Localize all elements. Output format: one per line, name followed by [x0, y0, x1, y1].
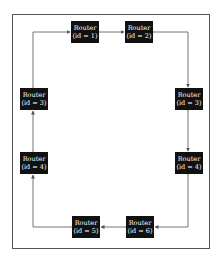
- node-label: Router: [23, 91, 46, 99]
- node-label: Router: [74, 24, 97, 32]
- node-id: (id = 3): [176, 99, 201, 107]
- node-label: Router: [128, 24, 151, 32]
- router-node-3-right: Router (id = 3): [175, 88, 203, 110]
- node-id: (id = 4): [21, 163, 46, 171]
- router-node-4-left: Router (id = 4): [20, 152, 48, 174]
- router-node-1: Router (id = 1): [71, 21, 99, 43]
- node-id: (id = 3): [21, 99, 46, 107]
- router-node-2: Router (id = 2): [125, 21, 153, 43]
- node-id: (id = 5): [73, 227, 98, 235]
- node-label: Router: [129, 219, 152, 227]
- router-node-4-right: Router (id = 4): [175, 152, 203, 174]
- node-label: Router: [178, 91, 201, 99]
- router-ring-diagram: Router (id = 1) Router (id = 2) Router (…: [0, 0, 222, 260]
- node-label: Router: [75, 219, 98, 227]
- node-id: (id = 1): [72, 32, 97, 40]
- node-label: Router: [23, 155, 46, 163]
- router-node-6: Router (id = 6): [126, 216, 154, 238]
- node-label: Router: [178, 155, 201, 163]
- router-node-3-left: Router (id = 3): [20, 88, 48, 110]
- node-id: (id = 6): [127, 227, 152, 235]
- router-node-5: Router (id = 5): [72, 216, 100, 238]
- node-id: (id = 2): [126, 32, 151, 40]
- connection-lines: [0, 0, 222, 260]
- node-id: (id = 4): [176, 163, 201, 171]
